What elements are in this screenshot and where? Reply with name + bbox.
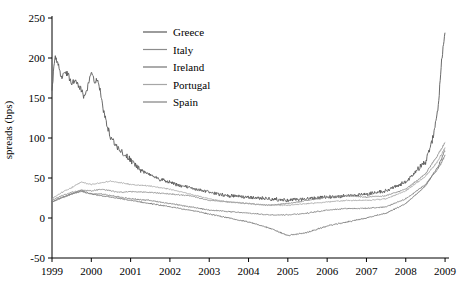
series-line-ireland — [52, 151, 445, 236]
data-series — [52, 33, 445, 236]
y-tick-label: 50 — [34, 172, 46, 184]
x-tick-label: 2008 — [395, 265, 418, 277]
y-tick-label: 0 — [40, 212, 46, 224]
axes: -500501001502002501999200020012002200320… — [29, 12, 457, 277]
y-tick-label: 150 — [29, 92, 46, 104]
x-tick-label: 2004 — [238, 265, 261, 277]
x-tick-label: 2005 — [277, 265, 300, 277]
legend-label-ireland: Ireland — [173, 61, 205, 73]
x-tick-label: 2003 — [198, 265, 221, 277]
legend-label-spain: Spain — [173, 96, 199, 108]
x-tick-label: 2001 — [120, 265, 142, 277]
series-line-greece — [52, 33, 445, 202]
x-tick-label: 2002 — [159, 265, 181, 277]
x-tick-label: 1999 — [41, 265, 64, 277]
legend-label-greece: Greece — [173, 26, 204, 38]
legend-label-italy: Italy — [173, 44, 194, 56]
y-tick-label: 200 — [29, 52, 46, 64]
chart-legend: GreeceItalyIrelandPortugalSpain — [143, 26, 210, 108]
chart-svg: -500501001502002501999200020012002200320… — [0, 0, 465, 295]
spreads-line-chart: spreads (bps) -5005010015020025019992000… — [0, 0, 465, 295]
x-tick-label: 2006 — [316, 265, 339, 277]
x-tick-label: 2007 — [355, 265, 378, 277]
x-tick-label: 2000 — [80, 265, 103, 277]
series-line-spain — [52, 155, 445, 215]
legend-label-portugal: Portugal — [173, 79, 210, 91]
y-tick-label: 100 — [29, 132, 46, 144]
y-tick-label: -50 — [30, 252, 45, 264]
y-tick-label: 250 — [29, 12, 46, 24]
x-tick-label: 2009 — [434, 265, 457, 277]
